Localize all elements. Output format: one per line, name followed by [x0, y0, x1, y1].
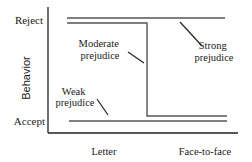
annotation-weak: Weak prejudice — [55, 86, 94, 108]
arrow-moderate — [128, 52, 144, 63]
arrow-weak — [97, 99, 108, 115]
y-axis-title: Behavior — [20, 56, 32, 100]
y-label-accept: Accept — [14, 115, 45, 127]
behavior-prejudice-chart: Reject Accept Behavior Letter Face-to-fa… — [0, 0, 252, 162]
x-label-letter: Letter — [91, 146, 117, 157]
annotation-moderate: Moderate prejudice — [79, 38, 122, 61]
arrow-strong — [180, 22, 202, 46]
y-label-reject: Reject — [15, 14, 43, 26]
x-label-face-to-face: Face-to-face — [179, 146, 232, 157]
